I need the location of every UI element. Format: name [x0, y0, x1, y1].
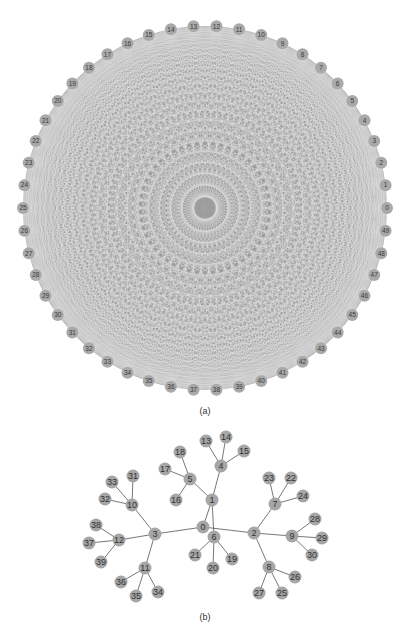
tree-node: 27 [253, 587, 266, 600]
figure-a-node: 23 [23, 157, 35, 169]
figure-a-node: 9 [276, 37, 288, 49]
tree-node: 23 [263, 472, 276, 485]
node-label: 9 [289, 531, 294, 541]
figure-a-node: 25 [17, 202, 29, 214]
figure-a-node: 15 [143, 29, 155, 41]
node-label: 16 [171, 495, 181, 505]
node-label: 24 [21, 181, 29, 188]
node-label: 31 [128, 471, 138, 481]
figure-a-node: 16 [122, 37, 134, 49]
node-label: 20 [208, 563, 218, 573]
tree-node: 28 [309, 513, 322, 526]
figure-a-node: 35 [143, 375, 155, 387]
node-label: 44 [334, 329, 342, 336]
figure-a-node: 2 [375, 157, 387, 169]
figure-a-node: 34 [122, 367, 134, 379]
figure-a-node: 47 [368, 269, 380, 281]
tree-node: 36 [115, 576, 128, 589]
node-label: 14 [221, 432, 231, 442]
tree-node: 29 [316, 532, 329, 545]
node-label: 23 [264, 473, 274, 483]
figure-a-center-hub [195, 198, 215, 218]
figure-a-node: 11 [233, 23, 245, 35]
node-label: 21 [190, 550, 200, 560]
figure-a-node: 18 [83, 62, 95, 74]
node-label: 29 [317, 533, 327, 543]
figure-a-node: 42 [297, 356, 309, 368]
tree-node: 17 [159, 463, 172, 476]
node-label: 3 [152, 529, 157, 539]
node-label: 15 [145, 31, 153, 38]
figure-a-node: 14 [165, 23, 177, 35]
node-label: 22 [286, 473, 296, 483]
node-label: 26 [290, 572, 300, 582]
figure-a-node: 44 [332, 327, 344, 339]
node-label: 48 [378, 250, 386, 257]
node-label: 47 [371, 271, 379, 278]
figure-a-node: 20 [52, 95, 64, 107]
tree-node: 19 [226, 553, 239, 566]
node-label: 42 [299, 358, 307, 365]
node-label: 32 [100, 494, 110, 504]
figure-a-node: 30 [52, 309, 64, 321]
figure-a-node: 26 [18, 225, 30, 237]
node-label: 20 [54, 97, 62, 104]
figure-b-nodes: 0123456789101112131415161718192021222324… [83, 431, 329, 603]
node-label: 1 [384, 181, 388, 188]
node-label: 41 [279, 369, 287, 376]
node-label: 23 [25, 159, 33, 166]
node-label: 1 [209, 495, 214, 505]
tree-node: 16 [170, 494, 183, 507]
node-label: 25 [19, 204, 27, 211]
node-label: 2 [379, 159, 383, 166]
figure-b-tree-graph: 0123456789101112131415161718192021222324… [83, 431, 329, 623]
node-label: 0 [385, 204, 389, 211]
node-label: 34 [124, 369, 132, 376]
node-label: 39 [96, 557, 106, 567]
tree-node: 18 [174, 446, 187, 459]
node-label: 7 [272, 499, 277, 509]
tree-node: 21 [189, 549, 202, 562]
node-label: 46 [361, 292, 369, 299]
figure-b-edges [89, 437, 322, 596]
node-label: 21 [42, 117, 50, 124]
figure-a-node: 4 [358, 114, 370, 126]
node-label: 10 [258, 31, 266, 38]
node-label: 5 [350, 97, 354, 104]
figure-a-node: 40 [255, 375, 267, 387]
tree-node: 3 [149, 528, 162, 541]
figure-a-node: 6 [332, 77, 344, 89]
node-label: 37 [84, 538, 94, 548]
node-label: 8 [301, 51, 305, 58]
node-label: 4 [363, 117, 367, 124]
tree-node: 34 [152, 586, 165, 599]
tree-edge [155, 527, 203, 534]
figure-a-node: 46 [358, 290, 370, 302]
figure-a-node: 3 [368, 135, 380, 147]
figure-b-caption: (b) [200, 612, 211, 622]
tree-node: 33 [106, 476, 119, 489]
figure-a-node: 45 [346, 309, 358, 321]
node-label: 39 [235, 383, 243, 390]
node-label: 4 [218, 461, 223, 471]
tree-node: 8 [263, 561, 276, 574]
tree-node: 39 [95, 556, 108, 569]
node-label: 11 [236, 26, 243, 33]
figure-a-node: 1 [380, 179, 392, 191]
tree-node: 5 [184, 473, 197, 486]
figure-a-node: 17 [101, 48, 113, 60]
node-label: 40 [258, 377, 266, 384]
node-label: 43 [317, 345, 325, 352]
tree-node: 15 [238, 445, 251, 458]
node-label: 16 [124, 40, 132, 47]
node-label: 7 [319, 64, 323, 71]
figure-a-node: 19 [66, 77, 78, 89]
figure-a-complete-graph: 0123456789101112131415161718192021222324… [17, 20, 393, 416]
node-label: 35 [145, 377, 153, 384]
node-label: 36 [167, 383, 175, 390]
node-label: 17 [104, 51, 112, 58]
node-label: 45 [349, 311, 357, 318]
tree-node: 20 [207, 562, 220, 575]
figure-a-node: 49 [380, 225, 392, 237]
tree-node: 12 [113, 534, 126, 547]
